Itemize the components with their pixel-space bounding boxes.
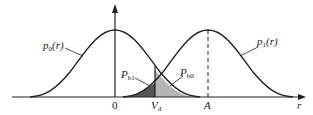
pb1-leader <box>135 78 150 86</box>
origin-label: 0 <box>112 100 118 111</box>
p0-label: p0(r) <box>43 40 64 53</box>
pb1-label: Pb1 <box>121 69 135 82</box>
density-plot <box>0 0 313 115</box>
figure: p0(r) p1(r) Pb1 Pb0 0 Vd A r <box>0 0 313 115</box>
p1-leader <box>240 47 258 56</box>
a-label: A <box>204 100 211 111</box>
p0-leader <box>65 48 83 56</box>
p1-label: p1(r) <box>257 36 278 49</box>
x-axis-label: r <box>297 100 301 111</box>
y-axis-arrow-icon <box>112 4 118 13</box>
vd-label: Vd <box>151 100 161 113</box>
pb0-label: Pb0 <box>180 67 194 80</box>
